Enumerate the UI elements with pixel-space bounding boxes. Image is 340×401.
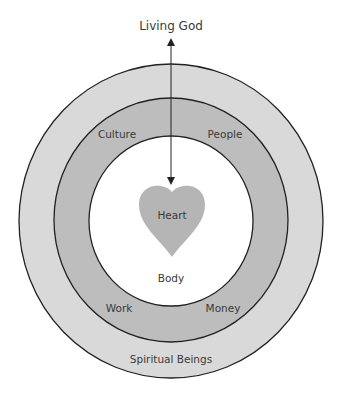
concentric-diagram: Living God Culture People Heart Body Wor… (0, 0, 340, 401)
label-living-god: Living God (139, 19, 203, 33)
label-heart: Heart (157, 209, 186, 221)
label-culture: Culture (98, 128, 136, 140)
label-work: Work (106, 302, 134, 314)
label-money: Money (206, 302, 241, 314)
label-spiritual-beings: Spiritual Beings (130, 353, 212, 365)
label-people: People (208, 128, 243, 140)
label-body: Body (158, 272, 185, 284)
diagram-canvas: Living God Culture People Heart Body Wor… (0, 0, 340, 401)
